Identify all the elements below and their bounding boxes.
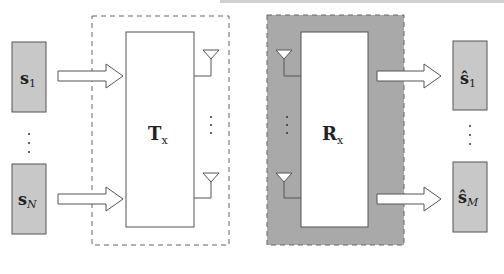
output-block-1 xyxy=(453,41,487,110)
transmit-antenna-n xyxy=(194,173,219,198)
top-crop-strip xyxy=(220,0,504,3)
mimo-system-diagram: Tx Rx s1 sN ŝ1 ŝM xyxy=(0,0,504,274)
transmit-antenna-ellipsis xyxy=(210,116,212,134)
transmit-antenna-1 xyxy=(194,50,219,76)
output-ellipsis xyxy=(469,125,471,145)
input-arrow-n xyxy=(58,187,123,211)
input-arrow-1 xyxy=(58,64,123,88)
source-ellipsis xyxy=(28,133,30,153)
